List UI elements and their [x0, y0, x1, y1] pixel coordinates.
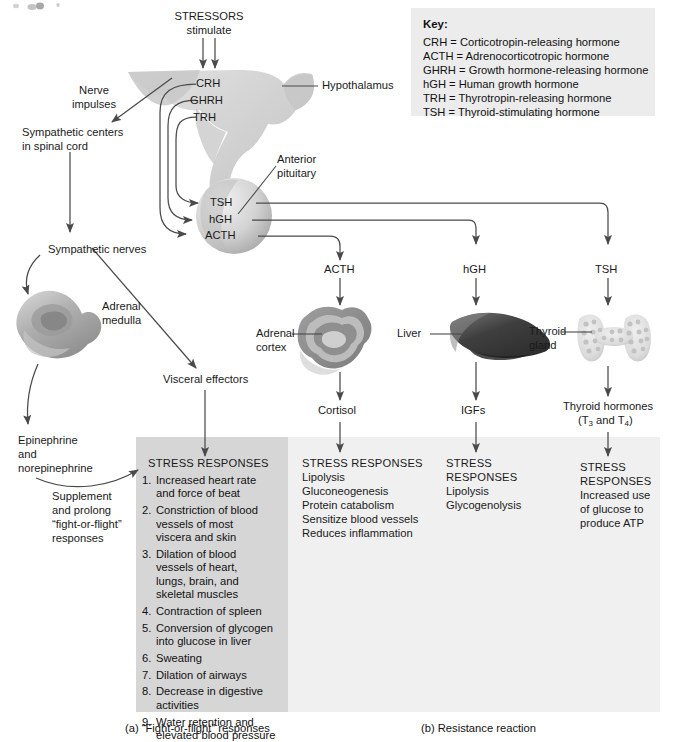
panel-a-item-5-number: 5.: [142, 622, 156, 635]
hypothalamus-label: Hypothalamus: [322, 79, 394, 93]
panel-a-heading: STRESS RESPONSES: [148, 457, 269, 471]
column-3-response-line3: produce ATP: [580, 517, 644, 531]
column-2-responses-heading-line2: RESPONSES: [446, 471, 517, 485]
supplement-label-line4: responses: [52, 532, 104, 546]
panel-a-item-3-number: 3.: [142, 548, 156, 561]
panel-a-item-4-number: 4.: [142, 605, 156, 618]
panel-a-item-6: 6.Sweating: [142, 652, 292, 665]
acth-pituitary-label: ACTH: [205, 229, 235, 243]
key-entry-hgh: hGH = Human growth hormone: [423, 78, 579, 90]
column-3-response-line2: of glucose to: [580, 503, 643, 517]
column-1-response-3: Protein catabolism: [302, 499, 394, 513]
nerve-impulses-label-line2: impulses: [52, 98, 136, 112]
panel-a-item-2-text: Constriction of bloodvessels of mostvisc…: [156, 504, 292, 544]
anterior-pituitary-label-line1: Anterior: [277, 153, 316, 167]
key-entry-crh: CRH = Corticotropin-releasing hormone: [423, 36, 620, 48]
panel-a-item-4: 4.Contraction of spleen: [142, 605, 292, 618]
panel-a-item-6-text: Sweating: [156, 652, 292, 665]
column-1-responses-heading: STRESS RESPONSES: [302, 457, 423, 471]
panel-a-item-5-text: Conversion of glycogeninto glucose in li…: [156, 622, 292, 649]
supplement-label-line3: “fight-or-flight”: [52, 518, 122, 532]
thyroid-hormones-label-line1: Thyroid hormones: [563, 400, 653, 414]
epinephrine-label-line2: and: [18, 448, 37, 462]
column-1-response-5: Reduces inflammation: [302, 527, 413, 541]
column-1-response-2: Gluconeogenesis: [302, 485, 388, 499]
panel-a-item-1-number: 1.: [142, 474, 156, 487]
hgh-pituitary-label: hGH: [209, 213, 232, 227]
supplement-label-line2: and prolong: [52, 504, 111, 518]
key-entry-acth: ACTH = Adrenocorticotropic hormone: [423, 50, 609, 62]
thyroid-hormones-label-line2: (T3 and T4): [578, 414, 633, 428]
column-2-responses-heading-line1: STRESS: [446, 457, 492, 471]
panel-a-item-1-text: Increased heart rateand force of beat: [156, 474, 292, 501]
adrenal-cortex-label-line2: cortex: [256, 341, 286, 355]
sympathetic-nerves-label: Sympathetic nerves: [48, 243, 146, 257]
sympathetic-centers-label-line1: Sympathetic centers: [22, 126, 123, 140]
igfs-label: IGFs: [461, 404, 485, 418]
key-entry-trh: TRH = Thyrotropin-releasing hormone: [423, 92, 612, 104]
figure-canvas: Key: CRH = Corticotropin-releasing hormo…: [0, 0, 673, 742]
crh-label: CRH: [196, 77, 220, 91]
stimulate-label: stimulate: [158, 24, 260, 38]
column-1-response-4: Sensitize blood vessels: [302, 513, 418, 527]
column-2-hormone-label: hGH: [463, 263, 486, 277]
cortisol-label: Cortisol: [318, 404, 356, 418]
panel-a-item-4-text: Contraction of spleen: [156, 605, 292, 618]
panel-a-item-8: 8.Decrease in digestiveactivities: [142, 685, 292, 712]
column-3-response-line1: Increased use: [580, 489, 650, 503]
supplement-label-line1: Supplement: [52, 490, 112, 504]
column-2-response-1: Lipolysis: [446, 485, 489, 499]
column-3-responses-heading-line1: STRESS: [580, 461, 626, 475]
key-heading: Key:: [423, 18, 448, 30]
column-1-response-1: Lipolysis: [302, 471, 345, 485]
adrenal-medulla-label-line2: medulla: [102, 314, 141, 328]
ghrh-label: GHRH: [190, 94, 223, 108]
panel-a-item-3: 3.Dilation of bloodvessels of heart,lung…: [142, 548, 292, 602]
tsh-pituitary-label: TSH: [210, 196, 232, 210]
panel-a-item-7-number: 7.: [142, 669, 156, 682]
panel-a-item-5: 5.Conversion of glycogeninto glucose in …: [142, 622, 292, 649]
anterior-pituitary-label-line2: pituitary: [277, 167, 316, 181]
column-3-hormone-label: TSH: [595, 263, 617, 277]
column-2-response-2: Glycogenolysis: [446, 499, 521, 513]
stressors-label: STRESSORS: [158, 10, 260, 24]
visceral-effectors-label: Visceral effectors: [163, 373, 248, 387]
column-3-responses-heading-line2: RESPONSES: [580, 475, 651, 489]
panel-a-item-8-text: Decrease in digestiveactivities: [156, 685, 292, 712]
panel-a-item-8-number: 8.: [142, 685, 156, 698]
caption-b: (b) Resistance reaction: [421, 722, 536, 734]
panel-a-item-2-number: 2.: [142, 504, 156, 517]
key-entry-tsh: TSH = Thyroid-stimulating hormone: [423, 106, 600, 118]
panel-a-item-7-text: Dilation of airways: [156, 669, 292, 682]
panel-a-item-1: 1.Increased heart rateand force of beat: [142, 474, 292, 501]
panel-a-item-2: 2.Constriction of bloodvessels of mostvi…: [142, 504, 292, 544]
norepinephrine-label-line3: norepinephrine: [18, 462, 93, 476]
trh-label: TRH: [193, 111, 216, 125]
sympathetic-centers-label-line2: in spinal cord: [22, 140, 88, 154]
nerve-impulses-label-line1: Nerve: [52, 84, 136, 98]
epinephrine-label-line1: Epinephrine: [18, 434, 78, 448]
adrenal-medulla-label-line1: Adrenal: [102, 300, 141, 314]
thyroid-gland-label-line2: gland: [529, 339, 556, 353]
panel-a-item-7: 7.Dilation of airways: [142, 669, 292, 682]
adrenal-cortex-label-line1: Adrenal: [256, 327, 295, 341]
thyroid-gland-label-line1: Thyroid: [529, 325, 566, 339]
panel-a-item-6-number: 6.: [142, 652, 156, 665]
key-entry-ghrh: GHRH = Growth hormone-releasing hormone: [423, 64, 648, 76]
column-1-hormone-label: ACTH: [324, 263, 354, 277]
caption-a: (a) “Fight-or-flight” responses: [125, 722, 270, 734]
panel-a-item-3-text: Dilation of bloodvessels of heart,lungs,…: [156, 548, 292, 602]
liver-label: Liver: [397, 327, 421, 341]
